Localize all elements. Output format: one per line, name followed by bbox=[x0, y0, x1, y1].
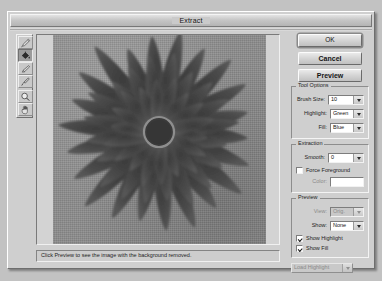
brush-size-value: 10 bbox=[331, 97, 337, 103]
show-label: Show: bbox=[312, 223, 327, 229]
fill-value: Blue bbox=[333, 125, 344, 131]
status-bar: Click Preview to see the image with the … bbox=[36, 250, 280, 262]
eyedropper-tool[interactable] bbox=[18, 75, 33, 88]
zoom-tool[interactable] bbox=[18, 90, 33, 103]
highlight-label: Highlight: bbox=[304, 111, 327, 117]
chevron-down-icon[interactable] bbox=[353, 110, 363, 118]
fill-tool[interactable] bbox=[18, 49, 33, 62]
image-preview-canvas[interactable] bbox=[36, 34, 280, 245]
highlight-select[interactable]: Green bbox=[330, 109, 364, 119]
cancel-button[interactable]: Cancel bbox=[298, 52, 362, 65]
force-foreground-row[interactable]: Force Foreground bbox=[296, 167, 364, 174]
highlight-value: Green bbox=[333, 111, 348, 117]
highlight-color-row: Highlight: Green bbox=[296, 109, 364, 119]
chevron-down-icon[interactable] bbox=[353, 124, 363, 132]
edge-highlighter-tool[interactable] bbox=[18, 36, 33, 49]
view-row: View: Orig. bbox=[296, 207, 364, 217]
smooth-row: Smooth: 0 bbox=[296, 153, 364, 163]
chevron-down-icon[interactable] bbox=[353, 154, 363, 162]
paint-bucket-icon bbox=[20, 51, 31, 61]
hand-tool[interactable] bbox=[18, 103, 33, 116]
force-foreground-checkbox[interactable] bbox=[296, 167, 303, 174]
show-fill-checkbox[interactable] bbox=[296, 245, 303, 252]
show-highlight-label: Show Highlight bbox=[306, 236, 343, 242]
window-title: Extract bbox=[172, 17, 209, 24]
extract-dialog-window: Extract bbox=[7, 11, 375, 269]
load-highlight-row: Load Highlight bbox=[291, 263, 369, 273]
smooth-value: 0 bbox=[331, 155, 334, 161]
show-highlight-checkbox[interactable] bbox=[296, 235, 303, 242]
smooth-stepper[interactable]: 0 bbox=[328, 153, 364, 163]
color-label: Color: bbox=[312, 179, 327, 185]
show-fill-label: Show Fill bbox=[306, 246, 328, 252]
show-value: None bbox=[333, 223, 346, 229]
show-row: Show: None bbox=[296, 221, 364, 231]
tool-options-legend: Tool Options bbox=[296, 83, 331, 89]
show-highlight-row[interactable]: Show Highlight bbox=[296, 235, 364, 242]
view-select[interactable]: Orig. bbox=[330, 207, 364, 217]
view-label: View: bbox=[314, 209, 327, 215]
view-value: Orig. bbox=[333, 209, 345, 215]
force-foreground-label: Force Foreground bbox=[306, 168, 350, 174]
fill-color-row: Fill: Blue bbox=[296, 123, 364, 133]
tool-options-group: Tool Options Brush Size: 10 Highlight: G… bbox=[291, 86, 369, 139]
brush-size-row: Brush Size: 10 bbox=[296, 95, 364, 105]
brush-size-label: Brush Size: bbox=[297, 97, 325, 103]
eyedropper-icon bbox=[20, 77, 31, 87]
load-highlight-select[interactable]: Load Highlight bbox=[291, 263, 353, 273]
fill-label: Fill: bbox=[318, 125, 327, 131]
extraction-legend: Extraction bbox=[296, 141, 324, 147]
magnifier-icon bbox=[20, 92, 31, 102]
title-bar: Extract bbox=[10, 14, 372, 27]
smooth-label: Smooth: bbox=[305, 155, 325, 161]
options-panel: OK Cancel Preview Tool Options Brush Siz… bbox=[290, 34, 370, 262]
preview-button[interactable]: Preview bbox=[298, 69, 362, 82]
chevron-down-icon[interactable] bbox=[342, 264, 352, 272]
chevron-down-icon[interactable] bbox=[353, 208, 363, 216]
show-select[interactable]: None bbox=[330, 221, 364, 231]
chevron-down-icon[interactable] bbox=[353, 222, 363, 230]
brush-size-stepper[interactable]: 10 bbox=[328, 95, 364, 105]
eraser-tool[interactable] bbox=[18, 62, 33, 75]
show-fill-row[interactable]: Show Fill bbox=[296, 245, 364, 252]
chevron-down-icon[interactable] bbox=[353, 96, 363, 104]
fill-select[interactable]: Blue bbox=[330, 123, 364, 133]
load-highlight-label: Load Highlight bbox=[294, 265, 329, 271]
color-swatch[interactable] bbox=[330, 177, 364, 187]
status-message: Click Preview to see the image with the … bbox=[41, 253, 191, 259]
tool-palette bbox=[16, 34, 33, 118]
ok-button[interactable]: OK bbox=[298, 34, 362, 47]
highlighter-icon bbox=[20, 38, 31, 48]
extraction-group: Extraction Smooth: 0 Force Foreground Co… bbox=[291, 144, 369, 193]
preview-legend: Preview bbox=[296, 195, 320, 201]
eraser-icon bbox=[20, 64, 31, 74]
color-row: Color: bbox=[296, 177, 364, 187]
source-image bbox=[53, 35, 266, 245]
flower-graphic bbox=[53, 35, 266, 245]
title-bar-grip bbox=[10, 28, 372, 31]
preview-group: Preview View: Orig. Show: None Show High… bbox=[291, 198, 369, 258]
hand-icon bbox=[20, 105, 31, 115]
